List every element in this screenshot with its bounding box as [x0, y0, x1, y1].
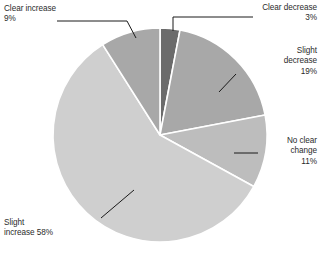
pie-slice-group	[53, 28, 267, 242]
slice-label-slight-decrease: Slight decrease 19%	[237, 46, 317, 77]
slice-label-clear-decrease: Clear decrease 3%	[225, 3, 317, 24]
slice-label-clear-increase: Clear increase 9%	[4, 4, 90, 25]
pie-chart-figure: Clear increase 9% Clear decrease 3% Slig…	[0, 0, 321, 257]
slice-label-no-clear-change: No clear change 11%	[237, 136, 317, 167]
slice-label-slight-increase: Slight increase 58%	[4, 218, 100, 239]
